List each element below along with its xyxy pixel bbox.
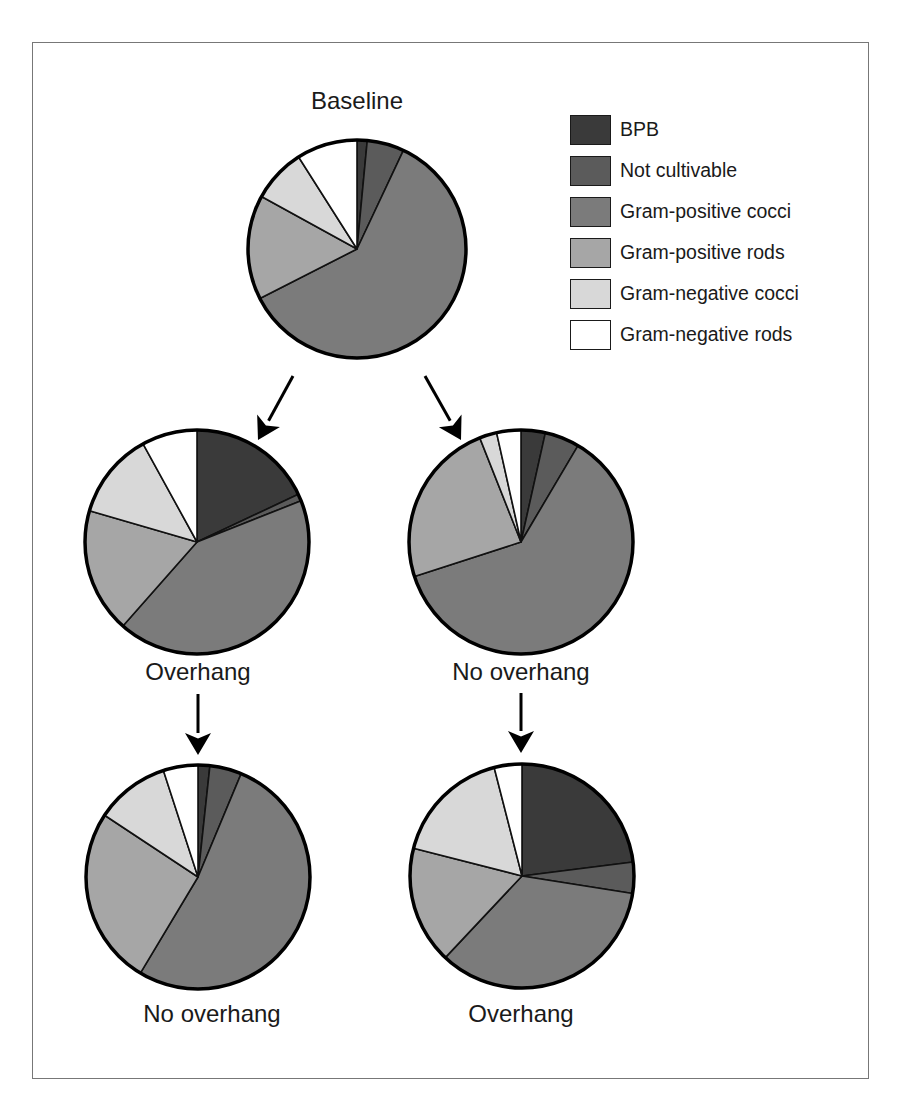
arrow-shaft <box>269 376 293 421</box>
legend-label: Not cultivable <box>620 159 737 182</box>
legend-swatch <box>570 115 611 145</box>
legend-item-bpb: BPB <box>570 109 799 150</box>
pie-bottom-left <box>86 765 310 989</box>
legend-swatch <box>570 156 611 186</box>
arrow-head-icon <box>185 733 211 755</box>
pie-slice-bpb <box>522 764 633 876</box>
arrow-2 <box>185 694 211 755</box>
legend-item-gram-positive-cocci: Gram-positive cocci <box>570 191 799 232</box>
pie-bottom-right <box>410 764 634 988</box>
legend-swatch <box>570 197 611 227</box>
arrow-1 <box>425 376 462 440</box>
pie-label-mid-left: Overhang <box>78 658 318 686</box>
arrow-3 <box>508 693 534 753</box>
pie-mid-right <box>409 430 633 654</box>
pie-label-bottom-left: No overhang <box>92 1000 332 1028</box>
pie-label-mid-right: No overhang <box>401 658 641 686</box>
pie-baseline <box>248 140 466 358</box>
legend-label: Gram-negative rods <box>620 323 792 346</box>
legend: BPB Not cultivable Gram-positive cocci G… <box>570 109 799 355</box>
legend-label: BPB <box>620 118 659 141</box>
legend-swatch <box>570 320 611 350</box>
pie-label-bottom-right: Overhang <box>401 1000 641 1028</box>
legend-swatch <box>570 238 611 268</box>
arrow-shaft <box>425 376 450 421</box>
legend-label: Gram-positive cocci <box>620 200 791 223</box>
arrow-head-icon <box>508 731 534 753</box>
pie-mid-left <box>85 430 309 654</box>
legend-label: Gram-negative cocci <box>620 282 799 305</box>
legend-item-gram-negative-rods: Gram-negative rods <box>570 314 799 355</box>
legend-label: Gram-positive rods <box>620 241 785 264</box>
pie-label-baseline: Baseline <box>237 87 477 115</box>
arrow-0 <box>257 376 293 440</box>
legend-item-gram-negative-cocci: Gram-negative cocci <box>570 273 799 314</box>
pies <box>85 140 634 989</box>
legend-item-gram-positive-rods: Gram-positive rods <box>570 232 799 273</box>
legend-swatch <box>570 279 611 309</box>
legend-item-not-cultivable: Not cultivable <box>570 150 799 191</box>
